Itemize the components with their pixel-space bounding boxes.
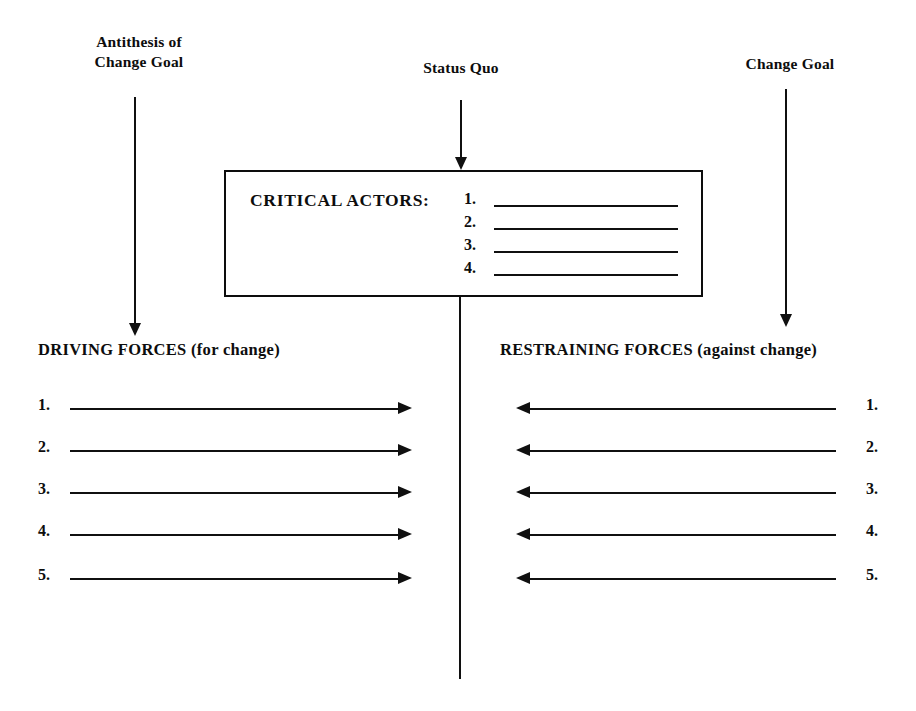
restraining-force-row: 2.: [516, 438, 878, 458]
driving-forces-header: DRIVING FORCES (for change): [38, 340, 280, 360]
left-arrow-icon: [516, 528, 530, 540]
status-quo-center-line: [459, 297, 461, 679]
right-arrow-icon: [398, 572, 412, 584]
critical-actor-number: 3.: [464, 236, 476, 254]
driving-force-blank-line[interactable]: [70, 534, 398, 536]
restraining-force-row: 4.: [516, 522, 878, 542]
restraining-force-row: 5.: [516, 566, 878, 586]
critical-actor-blank-line[interactable]: [494, 251, 678, 253]
right-arrow-icon: [398, 528, 412, 540]
driving-force-row: 5.: [38, 566, 412, 586]
right-arrow-icon: [398, 444, 412, 456]
critical-actors-title: CRITICAL ACTORS:: [250, 190, 430, 211]
restraining-force-blank-line[interactable]: [530, 534, 836, 536]
left-arrow-icon: [516, 486, 530, 498]
change-goal-down-arrow-icon: [775, 89, 797, 327]
restraining-force-number: 1.: [866, 396, 878, 414]
driving-force-number: 3.: [38, 480, 50, 498]
critical-actors-box: CRITICAL ACTORS: 1. 2. 3. 4.: [224, 170, 703, 297]
critical-actor-blank-line[interactable]: [494, 205, 678, 207]
driving-force-blank-line[interactable]: [70, 492, 398, 494]
restraining-force-number: 2.: [866, 438, 878, 456]
status-quo-down-arrow-icon: [450, 100, 472, 170]
force-field-diagram: Antithesis of Change Goal Status Quo Cha…: [0, 0, 916, 711]
driving-force-row: 4.: [38, 522, 412, 542]
left-arrow-icon: [516, 572, 530, 584]
restraining-force-row: 3.: [516, 480, 878, 500]
critical-actor-number: 1.: [464, 190, 476, 208]
antithesis-of-change-goal-label: Antithesis of Change Goal: [54, 32, 224, 73]
status-quo-label: Status Quo: [376, 58, 546, 78]
restraining-force-number: 5.: [866, 566, 878, 584]
arrow-head: [780, 314, 792, 327]
left-arrow-icon: [516, 402, 530, 414]
driving-force-row: 2.: [38, 438, 412, 458]
driving-force-number: 2.: [38, 438, 50, 456]
right-arrow-icon: [398, 402, 412, 414]
driving-force-row: 1.: [38, 396, 412, 416]
arrow-shaft: [134, 97, 136, 325]
restraining-force-number: 4.: [866, 522, 878, 540]
critical-actor-row: 3.: [464, 236, 684, 258]
right-arrow-icon: [398, 486, 412, 498]
change-goal-label: Change Goal: [700, 54, 880, 74]
arrow-head: [455, 157, 467, 170]
restraining-force-row: 1.: [516, 396, 878, 416]
driving-force-blank-line[interactable]: [70, 450, 398, 452]
critical-actor-row: 4.: [464, 259, 684, 281]
restraining-force-number: 3.: [866, 480, 878, 498]
driving-force-number: 4.: [38, 522, 50, 540]
arrow-shaft: [785, 89, 787, 316]
restraining-force-blank-line[interactable]: [530, 578, 836, 580]
arrow-head: [129, 323, 141, 336]
restraining-forces-header: RESTRAINING FORCES (against change): [500, 340, 817, 360]
critical-actor-blank-line[interactable]: [494, 274, 678, 276]
driving-force-row: 3.: [38, 480, 412, 500]
arrow-shaft: [460, 100, 462, 159]
driving-force-number: 5.: [38, 566, 50, 584]
critical-actor-row: 1.: [464, 190, 684, 212]
driving-force-blank-line[interactable]: [70, 408, 398, 410]
critical-actor-number: 4.: [464, 259, 476, 277]
antithesis-down-arrow-icon: [124, 97, 146, 336]
driving-force-number: 1.: [38, 396, 50, 414]
driving-force-blank-line[interactable]: [70, 578, 398, 580]
restraining-force-blank-line[interactable]: [530, 492, 836, 494]
restraining-force-blank-line[interactable]: [530, 450, 836, 452]
critical-actor-number: 2.: [464, 213, 476, 231]
critical-actor-blank-line[interactable]: [494, 228, 678, 230]
critical-actor-row: 2.: [464, 213, 684, 235]
restraining-force-blank-line[interactable]: [530, 408, 836, 410]
left-arrow-icon: [516, 444, 530, 456]
